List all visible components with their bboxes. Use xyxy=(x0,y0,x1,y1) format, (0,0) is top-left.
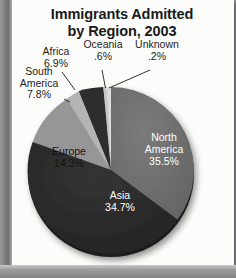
pie-label-north-america-value: 35.5% xyxy=(149,155,179,167)
leader-line-oceania xyxy=(102,70,106,88)
leader-line-africa xyxy=(62,72,75,90)
pie-chart-svg: North America 35.5% Asia 34.7% Europe 14… xyxy=(12,0,234,267)
pie-label-asia-value: 34.7% xyxy=(105,201,135,213)
pie-label-asia-line1: Asia xyxy=(110,189,131,201)
pie-label-north-america-line1: North xyxy=(151,131,177,143)
leader-line-unknown xyxy=(109,70,150,88)
pie-label-europe-line1: Europe xyxy=(52,145,86,157)
page-edge-bottom xyxy=(0,265,236,278)
pie-chart: North America 35.5% Asia 34.7% Europe 14… xyxy=(12,0,234,267)
page-edge-left xyxy=(0,0,12,278)
pie-label-europe-value: 14.3% xyxy=(54,157,84,169)
scanned-page-background: Immigrants Admitted by Region, 2003 Afri… xyxy=(0,0,236,278)
pie-label-north-america-line2: America xyxy=(145,143,184,155)
